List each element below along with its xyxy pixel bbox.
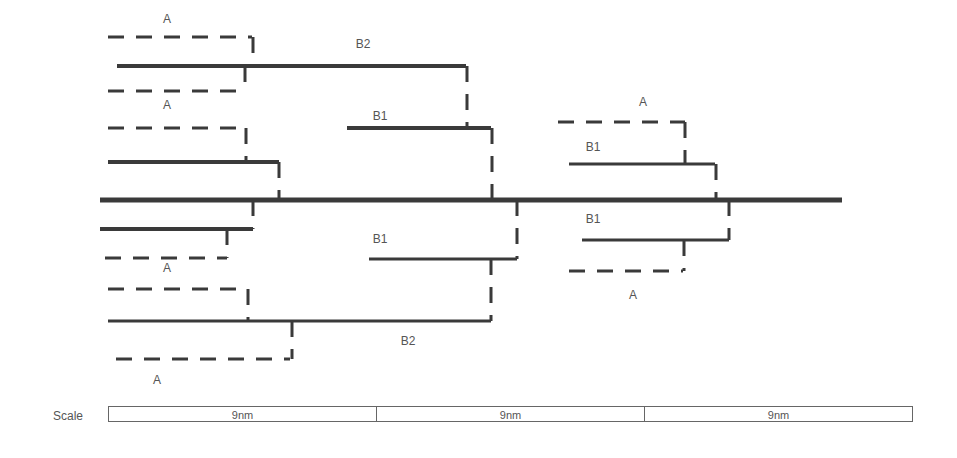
- segment-label: A: [163, 12, 171, 26]
- segment-label: A: [163, 98, 171, 112]
- scale-bar: 9nm 9nm 9nm: [108, 406, 913, 422]
- segment-label: B1: [586, 140, 601, 154]
- segment-label: B1: [373, 109, 388, 123]
- segment-label: B2: [401, 334, 416, 348]
- segment-label: B2: [356, 37, 371, 51]
- segment-label: B1: [586, 212, 601, 226]
- solid-lines: [100, 66, 842, 321]
- scale-segment: 9nm: [645, 407, 912, 421]
- segment-label: A: [163, 261, 171, 275]
- segment-label: A: [629, 288, 637, 302]
- scale-segment: 9nm: [377, 407, 645, 421]
- scale-title: Scale: [53, 409, 83, 423]
- structure-diagram: [0, 0, 957, 458]
- segment-label: A: [153, 373, 161, 387]
- segment-label: B1: [373, 232, 388, 246]
- scale-segment: 9nm: [109, 407, 377, 421]
- segment-label: A: [639, 95, 647, 109]
